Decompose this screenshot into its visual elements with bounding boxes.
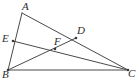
point-label-e: E	[2, 33, 9, 44]
vertex-dot-e	[12, 40, 15, 43]
geometry-canvas	[0, 0, 137, 82]
geometry-figure: ABCDEF	[0, 0, 137, 82]
point-label-c: C	[128, 68, 135, 79]
point-label-b: B	[2, 69, 9, 80]
cevian-ec	[13, 41, 128, 70]
point-label-f: F	[54, 36, 61, 47]
vertex-dot-f	[54, 48, 57, 51]
vertex-dot-d	[75, 37, 78, 40]
point-label-a: A	[22, 1, 29, 12]
point-label-d: D	[77, 25, 85, 36]
segments-group	[8, 13, 128, 70]
side-ac	[22, 13, 128, 70]
